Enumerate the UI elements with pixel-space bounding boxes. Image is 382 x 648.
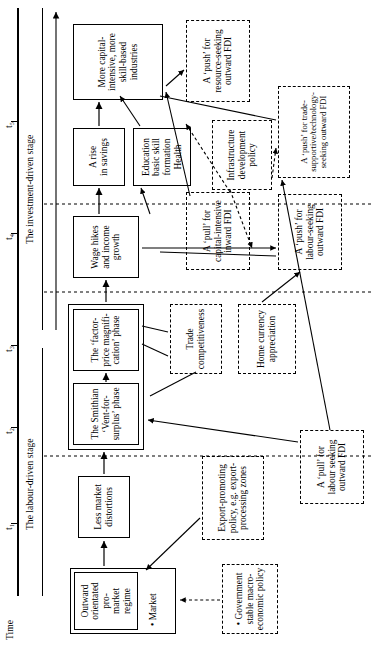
arrow-home-currency-to-push-labour [262,272,300,302]
arrow-pull-labour-to-smithian [148,420,298,442]
arrow-wage-hikes-to-education [141,188,150,214]
connector-arrow-layer [0,0,382,648]
arrow-wage-hikes-long-to-push-labour [160,252,276,256]
arrow-infrastructure-to-push-trade [272,148,276,178]
arrow-pull-labour-to-push-trade [282,180,330,430]
arrow-factor-price-to-trade-competitiveness [142,344,168,356]
arrow-more-capital-to-push-resource [166,70,184,86]
arrow-export-policy-to-outward-regime [146,518,200,570]
arrow-more-capital-to-push-trade [160,96,276,120]
arrow-infrastructure-to-education [186,124,230,192]
arrow-education-to-more-capital [120,96,140,126]
arrow-factor-price-to-home-currency [142,326,168,332]
arrow-pull-capital-to-more-capital [166,92,190,196]
figure-canvas: Time t₁ t₂ t₃ t₄ t₅ The labour-driven st… [0,0,382,648]
arrow-trade-competitiveness-to-phases [150,372,196,396]
arrow-infrastructure-to-pull-capital [230,190,252,248]
